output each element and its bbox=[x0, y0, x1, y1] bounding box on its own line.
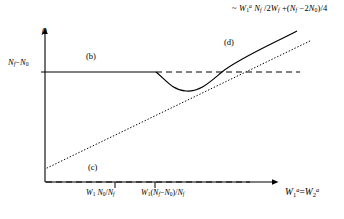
y-axis-tick-label: Nf−N0 bbox=[8, 58, 29, 68]
x-axis-tick-label-1: W1 N0/Nf bbox=[86, 189, 115, 198]
curve-label-d: (d) bbox=[224, 38, 234, 47]
curve-label-c: (c) bbox=[88, 163, 97, 172]
x-axis-tick-label-2: W1(Nf−N0)/Nf bbox=[141, 189, 184, 198]
figure-container: ~ W1a Nf /2Wf +(Nf −2N0)/4 ρ Nf−N0 (b) (… bbox=[0, 0, 344, 219]
asymptote-annotation: ~ W1a Nf /2Wf +(Nf −2N0)/4 bbox=[232, 4, 327, 14]
curve-label-b: (b) bbox=[86, 52, 96, 61]
y-axis-label: ρ bbox=[42, 25, 47, 35]
x-axis-label: W1a=W2a bbox=[285, 187, 319, 198]
